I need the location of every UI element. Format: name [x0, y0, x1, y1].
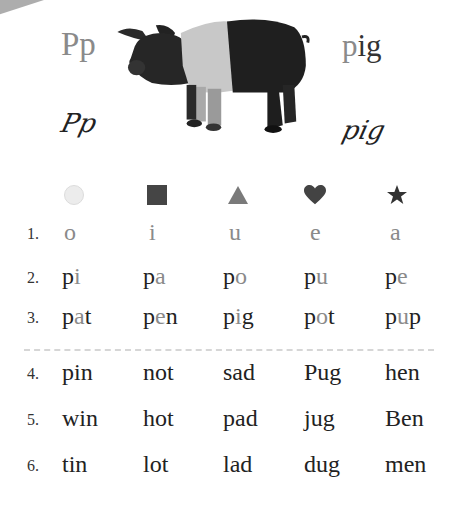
cell: pen — [143, 303, 178, 330]
cell: pup — [385, 303, 421, 330]
dashed-divider — [24, 349, 434, 351]
row-number: 1. — [27, 225, 39, 243]
row-number: 5. — [27, 411, 39, 429]
row-number: 4. — [27, 365, 39, 383]
cell: pot — [304, 303, 335, 330]
cell: hen — [385, 359, 420, 386]
cell: Ben — [385, 405, 424, 432]
cursive-letters: Pp — [58, 108, 100, 138]
cell: Pug — [304, 359, 341, 386]
cell: not — [143, 359, 174, 386]
header-word: pig — [342, 28, 382, 64]
row-4: 4. pin not sad Pug hen — [0, 359, 459, 399]
row-6: 6. tin lot lad dug men — [0, 451, 459, 491]
cell: pat — [62, 303, 91, 330]
cell: a — [390, 219, 401, 246]
cell: o — [64, 219, 76, 246]
star-icon — [386, 184, 408, 206]
row-number: 3. — [27, 309, 39, 327]
page-corner-shade — [0, 0, 45, 18]
row-number: 6. — [27, 457, 39, 475]
row-number: 2. — [27, 269, 39, 287]
header-word-initial: p — [342, 28, 358, 63]
cell: pi — [62, 263, 81, 290]
cell: pin — [62, 359, 93, 386]
pig-image — [112, 8, 317, 133]
heart-icon — [304, 184, 326, 206]
row-3: 3. pat pen pig pot pup — [0, 303, 459, 343]
cell: pu — [304, 263, 328, 290]
cursive-word: pig — [339, 115, 388, 145]
header-letters: Pp — [61, 26, 96, 63]
triangle-icon — [227, 184, 249, 206]
cell: pad — [223, 405, 258, 432]
cell: men — [385, 451, 426, 478]
cell: lot — [143, 451, 168, 478]
header-word-rest: ig — [358, 28, 382, 63]
cell: hot — [143, 405, 174, 432]
square-icon — [146, 184, 168, 206]
cell: pig — [223, 303, 254, 330]
cell: i — [149, 219, 156, 246]
cell: po — [223, 263, 247, 290]
cell: sad — [223, 359, 255, 386]
row-1: 1. o i u e a — [0, 219, 459, 259]
row-5: 5. win hot pad jug Ben — [0, 405, 459, 445]
cell: e — [310, 219, 321, 246]
row-2: 2. pi pa po pu pe — [0, 263, 459, 303]
cell: pa — [143, 263, 166, 290]
cell: lad — [223, 451, 252, 478]
cell: tin — [62, 451, 87, 478]
circle-icon — [63, 184, 85, 206]
cell: jug — [304, 405, 335, 432]
cell: dug — [304, 451, 340, 478]
cell: u — [229, 219, 241, 246]
cell: win — [62, 405, 98, 432]
cell: pe — [385, 263, 408, 290]
